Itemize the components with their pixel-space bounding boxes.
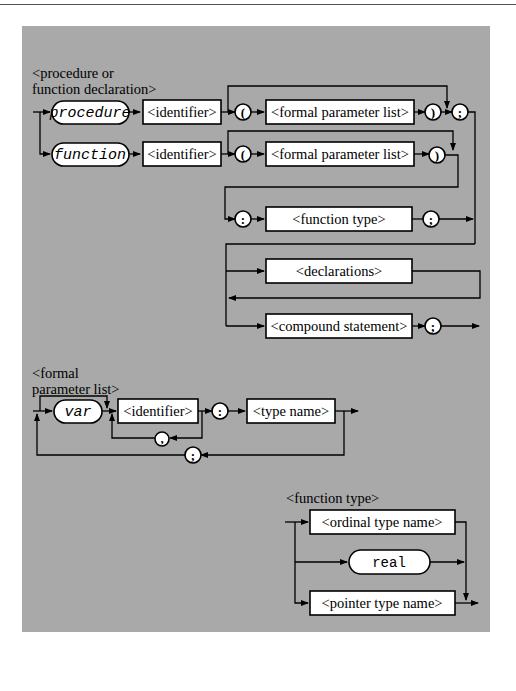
- svg-text:<formal parameter list>: <formal parameter list>: [271, 104, 409, 120]
- function-type-node: <function type>: [266, 207, 412, 231]
- compound-statement-node: <compound statement>: [266, 314, 412, 338]
- comma-node: ,: [155, 431, 169, 446]
- formal-parameter-list-node-1: <formal parameter list>: [266, 100, 414, 124]
- svg-text:<ordinal type name>: <ordinal type name>: [321, 514, 442, 530]
- semicolon-node: ;: [185, 447, 201, 463]
- pointer-type-name-node: <pointer type name>: [310, 591, 455, 615]
- identifier-node: <identifier>: [118, 399, 198, 423]
- svg-text:<pointer type name>: <pointer type name>: [321, 595, 442, 611]
- svg-text:;: ;: [191, 448, 195, 463]
- formal-parameter-list-diagram: <formal parameter list> var <identifier>…: [32, 365, 358, 463]
- declarations-node: <declarations>: [266, 259, 412, 283]
- syntax-diagrams: <procedure or function declaration> proc…: [0, 0, 516, 691]
- procedure-keyword-node: procedure: [48, 101, 130, 124]
- svg-text:<identifier>: <identifier>: [147, 146, 217, 162]
- svg-text:<identifier>: <identifier>: [147, 104, 217, 120]
- svg-text:(: (: [241, 105, 245, 120]
- svg-text:<type name>: <type name>: [253, 403, 329, 419]
- svg-text:;: ;: [431, 319, 435, 334]
- svg-text:var: var: [64, 404, 91, 421]
- svg-text:;: ;: [429, 212, 433, 227]
- svg-text:,: ,: [160, 431, 163, 446]
- diagram-title-line2: function declaration>: [32, 81, 157, 97]
- semicolon-node-1: ;: [452, 104, 468, 120]
- rparen-node-1: ): [425, 104, 441, 120]
- diagram-title: <function type>: [286, 490, 379, 506]
- colon-node: :: [212, 403, 228, 419]
- function-type-diagram: <function type> <ordinal type name> real…: [285, 490, 478, 615]
- formal-parameter-list-node-2: <formal parameter list>: [266, 142, 414, 166]
- svg-text:real: real: [372, 555, 406, 571]
- identifier-node-1: <identifier>: [143, 100, 221, 124]
- semicolon-node-2: ;: [423, 211, 439, 227]
- rparen-node-2: ): [429, 147, 445, 163]
- svg-text::: :: [241, 212, 245, 227]
- svg-text:(: (: [241, 147, 245, 162]
- semicolon-node-3: ;: [425, 318, 441, 334]
- svg-text:function: function: [54, 147, 126, 164]
- diagram-title-line1: <procedure or: [32, 65, 114, 81]
- ordinal-type-name-node: <ordinal type name>: [310, 510, 455, 534]
- svg-text:<identifier>: <identifier>: [123, 403, 193, 419]
- svg-text:<function type>: <function type>: [292, 211, 385, 227]
- diagram-title-line2: parameter list>: [32, 381, 120, 397]
- colon-node: :: [235, 211, 251, 227]
- svg-text:<declarations>: <declarations>: [296, 263, 382, 279]
- svg-text::: :: [218, 404, 222, 419]
- diagram-title-line1: <formal: [32, 365, 79, 381]
- type-name-node: <type name>: [247, 399, 335, 423]
- svg-text:): ): [435, 148, 439, 163]
- svg-text:<compound statement>: <compound statement>: [271, 318, 408, 334]
- svg-text:;: ;: [458, 105, 462, 120]
- procedure-function-declaration-diagram: <procedure or function declaration> proc…: [32, 65, 480, 338]
- svg-text:<formal parameter list>: <formal parameter list>: [271, 146, 409, 162]
- svg-text:): ): [431, 105, 435, 120]
- lparen-node-2: (: [235, 146, 251, 162]
- svg-text:procedure: procedure: [48, 105, 130, 122]
- identifier-node-2: <identifier>: [143, 142, 221, 166]
- lparen-node-1: (: [235, 104, 251, 120]
- function-keyword-node: function: [52, 143, 129, 166]
- real-keyword-node: real: [349, 550, 430, 574]
- var-keyword-node: var: [54, 400, 102, 423]
